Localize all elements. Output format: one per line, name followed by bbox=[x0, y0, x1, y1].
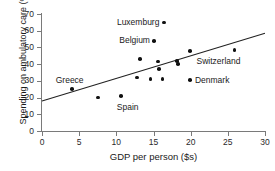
data-point bbox=[96, 96, 100, 100]
data-point bbox=[176, 62, 180, 66]
x-tick-label: 10 bbox=[106, 138, 126, 147]
x-tick-mark bbox=[228, 132, 229, 136]
data-point-label: Denmark bbox=[195, 76, 229, 85]
data-point bbox=[161, 77, 165, 81]
x-axis-title: GDP per person ($s) bbox=[42, 152, 265, 162]
y-tick-mark bbox=[37, 98, 41, 99]
plot-area bbox=[42, 14, 265, 131]
x-tick-label: 25 bbox=[218, 138, 238, 147]
x-tick-mark bbox=[42, 132, 43, 136]
data-point bbox=[119, 94, 123, 98]
data-point-label: Spain bbox=[117, 103, 139, 112]
x-tick-label: 20 bbox=[181, 138, 201, 147]
x-tick-mark bbox=[154, 132, 155, 136]
y-axis-title: Spending on ambulatory care (%) bbox=[19, 0, 28, 125]
data-point-label: Belgium bbox=[119, 36, 150, 45]
data-point bbox=[188, 49, 192, 53]
x-tick-label: 30 bbox=[255, 138, 275, 147]
x-tick-mark bbox=[191, 132, 192, 136]
data-point bbox=[138, 57, 142, 61]
y-tick-mark bbox=[37, 81, 41, 82]
data-point bbox=[156, 60, 160, 64]
data-point-label: Greece bbox=[56, 76, 84, 85]
data-point bbox=[152, 39, 156, 43]
y-tick-mark bbox=[37, 31, 41, 32]
y-tick-mark bbox=[37, 114, 41, 115]
x-tick-label: 15 bbox=[144, 138, 164, 147]
y-tick-mark bbox=[37, 131, 41, 132]
data-point-label: Luxemburg bbox=[117, 18, 160, 27]
y-tick-mark bbox=[37, 14, 41, 15]
x-tick-mark bbox=[79, 132, 80, 136]
y-tick-label: 0 bbox=[18, 127, 34, 136]
data-point bbox=[162, 21, 166, 25]
y-tick-mark bbox=[37, 64, 41, 65]
x-tick-mark bbox=[265, 132, 266, 136]
data-point bbox=[233, 48, 237, 52]
scatter-chart: 010203040506070 051015202530 Spending on… bbox=[0, 0, 275, 171]
x-tick-mark bbox=[116, 132, 117, 136]
data-point bbox=[70, 87, 74, 91]
y-tick-mark bbox=[37, 47, 41, 48]
data-point bbox=[157, 67, 161, 71]
data-point bbox=[188, 78, 192, 82]
x-tick-label: 5 bbox=[69, 138, 89, 147]
x-tick-label: 0 bbox=[32, 138, 52, 147]
data-point-label: Switzerland bbox=[197, 57, 241, 66]
